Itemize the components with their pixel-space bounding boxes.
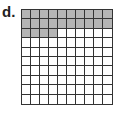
grid-cell	[85, 57, 94, 66]
grid-cell	[85, 29, 94, 38]
grid-cell	[58, 76, 67, 85]
shaded-cell	[49, 29, 58, 38]
grid-cell	[76, 85, 85, 94]
hundred-grid	[21, 9, 113, 105]
grid-cell	[40, 66, 49, 75]
shaded-cell	[22, 29, 31, 38]
shaded-cell	[40, 19, 49, 28]
grid-cell	[67, 38, 76, 47]
grid-cell	[85, 85, 94, 94]
grid-cell	[67, 76, 76, 85]
grid-cell	[94, 38, 103, 47]
problem-label: d.	[2, 4, 15, 19]
grid-cell	[31, 85, 40, 94]
shaded-cell	[76, 10, 85, 19]
grid-cell	[22, 95, 31, 104]
grid-cell	[49, 76, 58, 85]
grid-cell	[76, 38, 85, 47]
grid-cell	[49, 66, 58, 75]
grid-cell	[31, 95, 40, 104]
shaded-cell	[22, 10, 31, 19]
grid-cell	[94, 66, 103, 75]
grid-cell	[67, 29, 76, 38]
grid-cell	[31, 66, 40, 75]
shaded-cell	[58, 10, 67, 19]
grid-cell	[58, 85, 67, 94]
grid-cell	[94, 85, 103, 94]
grid-cell	[22, 76, 31, 85]
shaded-cell	[103, 10, 112, 19]
grid-cell	[76, 29, 85, 38]
grid-cell	[49, 85, 58, 94]
grid-cell	[94, 76, 103, 85]
grid-cell	[85, 76, 94, 85]
shaded-cell	[49, 10, 58, 19]
grid-cell	[49, 38, 58, 47]
grid-cell	[67, 48, 76, 57]
grid-cell	[49, 95, 58, 104]
grid-cell	[85, 48, 94, 57]
grid-cell	[58, 29, 67, 38]
grid-cell	[76, 95, 85, 104]
shaded-cell	[31, 29, 40, 38]
shaded-cell	[67, 19, 76, 28]
grid-cell	[40, 57, 49, 66]
grid-cell	[40, 76, 49, 85]
grid-cell	[58, 57, 67, 66]
shaded-cell	[94, 19, 103, 28]
grid-cell	[31, 38, 40, 47]
grid-cell	[22, 38, 31, 47]
grid-cell	[58, 66, 67, 75]
grid-cell	[22, 66, 31, 75]
shaded-cell	[40, 10, 49, 19]
grid-cell	[85, 95, 94, 104]
grid-cell	[103, 29, 112, 38]
shaded-cell	[31, 10, 40, 19]
grid-cell	[103, 76, 112, 85]
grid-cell	[40, 85, 49, 94]
shaded-cell	[76, 19, 85, 28]
grid-cell	[103, 66, 112, 75]
grid-cell	[31, 76, 40, 85]
grid-cell	[67, 66, 76, 75]
grid-cell	[103, 95, 112, 104]
shaded-cell	[40, 29, 49, 38]
grid-cell	[67, 57, 76, 66]
grid-cell	[76, 76, 85, 85]
grid-cell	[67, 85, 76, 94]
grid-cell	[49, 57, 58, 66]
grid-cell	[31, 57, 40, 66]
shaded-cell	[85, 19, 94, 28]
grid-cell	[103, 57, 112, 66]
grid-cell	[58, 95, 67, 104]
grid-cell	[103, 85, 112, 94]
grid-cell	[103, 38, 112, 47]
grid-cell	[94, 29, 103, 38]
shaded-cell	[58, 19, 67, 28]
grid-cell	[22, 57, 31, 66]
shaded-cell	[31, 19, 40, 28]
grid-cell	[22, 48, 31, 57]
grid-cell	[85, 66, 94, 75]
grid-cell	[103, 48, 112, 57]
grid-cell	[58, 38, 67, 47]
grid-cell	[76, 48, 85, 57]
grid-cell	[76, 57, 85, 66]
grid-cell	[67, 95, 76, 104]
shaded-cell	[85, 10, 94, 19]
grid-cell	[58, 48, 67, 57]
grid-cell	[49, 48, 58, 57]
grid-cell	[40, 95, 49, 104]
grid-cell	[76, 66, 85, 75]
grid-cell	[40, 48, 49, 57]
grid-cell	[31, 48, 40, 57]
shaded-cell	[67, 10, 76, 19]
grid-cell	[94, 48, 103, 57]
shaded-cell	[94, 10, 103, 19]
grid-cell	[40, 38, 49, 47]
shaded-cell	[22, 19, 31, 28]
grid-cell	[85, 38, 94, 47]
grid-cell	[94, 57, 103, 66]
grid-cell	[94, 95, 103, 104]
grid-cell	[22, 85, 31, 94]
